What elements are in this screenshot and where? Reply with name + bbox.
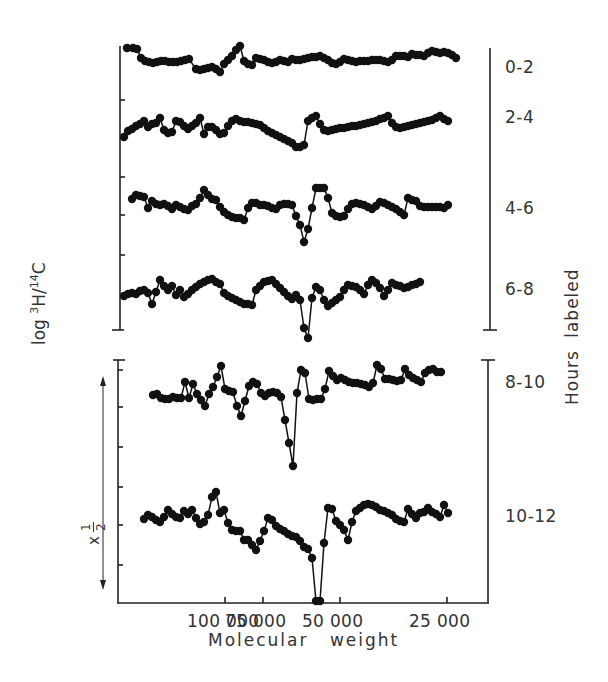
- data-point: [416, 278, 424, 286]
- data-point: [308, 294, 316, 302]
- lower-right-bracket: [481, 360, 495, 603]
- data-point: [185, 394, 193, 402]
- data-point: [196, 114, 204, 122]
- series-8-10: [149, 361, 445, 470]
- data-point: [240, 216, 248, 224]
- data-point: [348, 518, 356, 526]
- scale-prefix: x: [85, 536, 103, 545]
- data-point: [140, 193, 148, 201]
- series-0-2: [123, 42, 460, 76]
- series-2-4: [120, 112, 452, 151]
- series-label: 8-10: [505, 372, 546, 392]
- data-point: [321, 385, 329, 393]
- data-point: [316, 286, 324, 294]
- data-point: [340, 526, 348, 534]
- data-point: [376, 284, 384, 292]
- series-label: 0-2: [505, 57, 534, 77]
- data-point: [277, 393, 285, 401]
- data-point: [328, 505, 336, 513]
- series-10-12: [140, 488, 452, 605]
- series-6-8: [120, 275, 424, 342]
- data-point: [316, 597, 324, 605]
- data-point: [296, 221, 304, 229]
- data-point: [360, 290, 368, 298]
- data-point: [308, 554, 316, 562]
- data-point: [229, 388, 237, 396]
- data-point: [317, 395, 325, 403]
- data-point: [397, 376, 405, 384]
- data-point: [213, 373, 221, 381]
- right-axis-title: Hours labeled: [562, 268, 582, 405]
- lower-left-axis: [113, 360, 125, 603]
- data-point: [300, 141, 308, 149]
- data-point: [220, 506, 228, 514]
- data-point: [288, 201, 296, 209]
- data-point: [437, 368, 445, 376]
- data-point: [312, 112, 320, 120]
- data-point: [304, 225, 312, 233]
- data-point: [440, 501, 448, 509]
- series-layer: [120, 42, 460, 605]
- data-point: [209, 383, 217, 391]
- data-point: [188, 506, 196, 514]
- data-point: [212, 488, 220, 496]
- data-point: [304, 545, 312, 553]
- data-point: [293, 389, 301, 397]
- data-point: [241, 397, 249, 405]
- data-point: [285, 439, 293, 447]
- data-point: [216, 280, 224, 288]
- data-point: [444, 117, 452, 125]
- data-point: [168, 128, 176, 136]
- data-point: [369, 379, 377, 387]
- data-point: [260, 527, 268, 535]
- data-point: [289, 462, 297, 470]
- data-point: [133, 45, 141, 53]
- data-point: [201, 402, 209, 410]
- series-4-6: [128, 184, 452, 246]
- data-point: [236, 527, 244, 535]
- data-point: [320, 539, 328, 547]
- data-point: [292, 212, 300, 220]
- data-point: [196, 194, 204, 202]
- data-point: [344, 536, 352, 544]
- data-point: [444, 201, 452, 209]
- data-point: [233, 402, 241, 410]
- x-tick-label: 75 000: [225, 611, 286, 631]
- data-point: [216, 68, 224, 76]
- data-point: [156, 114, 164, 122]
- data-point: [324, 194, 332, 202]
- data-point: [204, 511, 212, 519]
- series-label: 6-8: [505, 279, 534, 299]
- x-axis-title: Molecular weight: [208, 630, 399, 650]
- data-point: [308, 204, 316, 212]
- data-point: [436, 513, 444, 521]
- data-point: [417, 378, 425, 386]
- data-point: [189, 380, 197, 388]
- data-point: [236, 42, 244, 50]
- data-point: [400, 211, 408, 219]
- data-point: [148, 300, 156, 308]
- series-label: 4-6: [505, 198, 534, 218]
- data-point: [177, 394, 185, 402]
- data-point: [452, 54, 460, 62]
- data-point: [256, 537, 264, 545]
- scale-arrow: [100, 376, 106, 590]
- data-point: [152, 288, 160, 296]
- data-point: [300, 238, 308, 246]
- data-point: [304, 334, 312, 342]
- x-axis: [117, 597, 489, 603]
- y-axis-title: log 3H/14C: [28, 262, 49, 345]
- upper-left-axis: [112, 46, 125, 330]
- data-point: [168, 282, 176, 290]
- data-point: [377, 365, 385, 373]
- data-point: [181, 378, 189, 386]
- data-point: [300, 324, 308, 332]
- data-point: [248, 301, 256, 309]
- data-point: [444, 509, 452, 517]
- x-tick-label: 50 000: [302, 611, 363, 631]
- scale-fraction: 1 2: [80, 522, 107, 532]
- data-point: [217, 362, 225, 370]
- series-label: 10-12: [505, 506, 557, 526]
- data-point: [144, 289, 152, 297]
- data-point: [253, 380, 261, 388]
